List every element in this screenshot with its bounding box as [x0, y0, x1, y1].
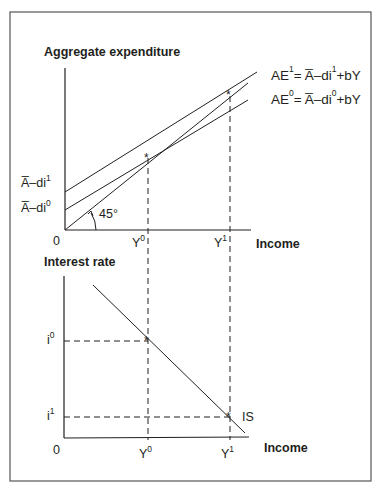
top-x-tick-y1: Y1: [214, 233, 227, 250]
y-tick-i0: i0: [47, 330, 55, 347]
y-tick-i1: i1: [47, 406, 55, 423]
ae0-line: [65, 100, 248, 210]
y-axis-label-interest-rate: Interest rate: [44, 255, 116, 269]
bottom-panel: Interest rate * * i0 i1 IS 0 Y0 Y1 Incom…: [44, 255, 308, 461]
top-panel: Aggregate expenditure * * 45° A̅–di1 A̅–…: [21, 45, 361, 251]
equation-ae0: AE0= A̅–di0+bY: [271, 88, 361, 107]
angle-label: 45°: [99, 207, 118, 221]
bottom-x-axis-label-income: Income: [264, 441, 308, 455]
is-curve-label: IS: [242, 410, 254, 424]
bottom-x-axis: [64, 437, 249, 438]
y-axis-label-aggregate-expenditure: Aggregate expenditure: [44, 45, 180, 59]
equation-ae1: AE1= A̅–di1+bY: [271, 64, 361, 83]
is-point-marker-i1: *: [226, 410, 231, 424]
top-origin-label: 0: [53, 234, 60, 248]
intercept-label-a-di0: A̅–di0: [21, 198, 51, 215]
angle-arrow-icon: [88, 211, 93, 216]
bottom-x-tick-y0: Y0: [139, 444, 152, 461]
bottom-x-tick-y1: Y1: [221, 444, 234, 461]
is-curve-derivation-diagram: Aggregate expenditure * * 45° A̅–di1 A̅–…: [0, 0, 381, 492]
45-degree-line: [65, 83, 248, 230]
intercept-label-a-di1: A̅–di1: [21, 173, 51, 190]
angle-arc: [91, 213, 96, 230]
is-curve: [93, 285, 245, 433]
is-point-marker-i0: *: [144, 334, 149, 348]
top-x-axis-label-income: Income: [256, 237, 300, 251]
top-x-tick-y0: Y0: [132, 233, 145, 250]
bottom-origin-label: 0: [53, 443, 60, 457]
